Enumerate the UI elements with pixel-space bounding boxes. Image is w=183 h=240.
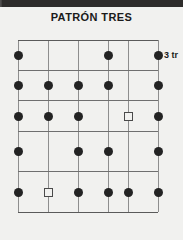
note-marker-s1-f3 (14, 112, 23, 121)
note-marker-s4-f4 (104, 147, 113, 156)
note-marker-s3-f4 (74, 147, 83, 156)
fret-line-1 (18, 70, 158, 71)
note-marker-s5-f5 (124, 188, 133, 197)
root-marker-s5-f3 (124, 112, 133, 121)
note-marker-s6-f5 (154, 188, 163, 197)
page-title: PATRÓN TRES (0, 11, 183, 23)
note-marker-s1-f4 (14, 147, 23, 156)
note-marker-s3-f2 (74, 81, 83, 90)
string-line-5 (128, 40, 129, 212)
page-root: PATRÓN TRES 3 tr (0, 0, 183, 240)
note-marker-s6-f1 (154, 51, 163, 60)
fret-position-label: 3 tr (164, 50, 178, 60)
note-marker-s6-f4 (154, 147, 163, 156)
string-line-1 (18, 40, 19, 212)
string-line-4 (108, 40, 109, 212)
header-band (0, 0, 183, 7)
string-line-3 (78, 40, 79, 212)
root-marker-s2-f5 (44, 188, 53, 197)
note-marker-s1-f2 (14, 81, 23, 90)
note-marker-s2-f3 (44, 112, 53, 121)
fret-line-2 (18, 100, 158, 101)
fretboard-diagram (18, 40, 158, 212)
string-line-6 (158, 40, 159, 212)
fret-line-3 (18, 131, 158, 132)
note-marker-s3-f3 (74, 112, 83, 121)
fret-line-5 (18, 212, 158, 213)
note-marker-s6-f2 (154, 81, 163, 90)
note-marker-s1-f1 (14, 51, 23, 60)
note-marker-s4-f2 (104, 81, 113, 90)
note-marker-s2-f2 (44, 81, 53, 90)
note-marker-s3-f5 (74, 188, 83, 197)
fret-line-4 (18, 171, 158, 172)
note-marker-s6-f3 (154, 112, 163, 121)
fret-line-0 (18, 40, 158, 41)
note-marker-s4-f5 (104, 188, 113, 197)
string-line-2 (48, 40, 49, 212)
note-marker-s1-f5 (14, 188, 23, 197)
note-marker-s4-f1 (104, 51, 113, 60)
